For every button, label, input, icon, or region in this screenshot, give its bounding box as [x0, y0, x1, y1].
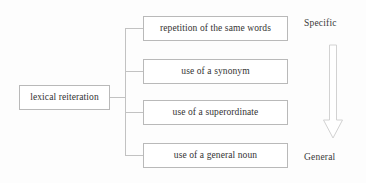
connector-vertical-trunk: [125, 28, 126, 156]
leaf-node-repetition: repetition of the same words: [143, 16, 288, 41]
leaf-node-label: repetition of the same words: [160, 23, 271, 33]
diagram-canvas: lexical reiteration repetition of the sa…: [0, 0, 366, 183]
scale-label-general: General: [304, 152, 335, 162]
leaf-node-general-noun: use of a general noun: [143, 143, 288, 168]
connector-root-stub: [110, 97, 125, 98]
connector-branch-3: [125, 112, 143, 113]
connector-branch-4: [125, 155, 143, 156]
leaf-node-synonym: use of a synonym: [143, 59, 288, 84]
root-node-lexical-reiteration: lexical reiteration: [19, 85, 110, 110]
down-arrow-outline-icon: [320, 44, 346, 140]
leaf-node-label: use of a synonym: [181, 66, 249, 76]
scale-label-specific: Specific: [304, 18, 337, 28]
leaf-node-superordinate: use of a superordinate: [143, 100, 288, 125]
connector-branch-1: [125, 28, 143, 29]
connector-branch-2: [125, 71, 143, 72]
leaf-node-label: use of a general noun: [174, 150, 257, 160]
leaf-node-label: use of a superordinate: [173, 107, 259, 117]
root-node-label: lexical reiteration: [30, 92, 99, 102]
